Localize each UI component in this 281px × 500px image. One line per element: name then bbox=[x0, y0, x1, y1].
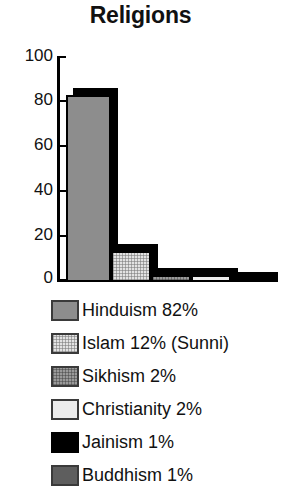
y-tick-label-40: 40 bbox=[7, 181, 53, 198]
chart-legend: Hinduism 82% Islam 12% (Sunni) Sikhism 2… bbox=[0, 296, 281, 494]
bar-jainism-face bbox=[231, 278, 265, 282]
bar-christianity-face bbox=[191, 275, 231, 282]
bar-hinduism-face bbox=[66, 95, 111, 282]
y-tick-label-20: 20 bbox=[7, 226, 53, 243]
page-title: Religions bbox=[0, 2, 281, 29]
legend-label-buddhism: Buddhism 1% bbox=[82, 464, 193, 486]
legend-label-hinduism: Hinduism 82% bbox=[82, 299, 198, 321]
legend-swatch-hinduism bbox=[51, 300, 79, 321]
legend-item-christianity[interactable]: Christianity 2% bbox=[0, 395, 281, 428]
legend-item-islam[interactable]: Islam 12% (Sunni) bbox=[0, 329, 281, 362]
bar-sikhism-face bbox=[151, 275, 191, 282]
legend-label-jainism: Jainism 1% bbox=[82, 431, 174, 453]
legend-swatch-islam bbox=[51, 333, 79, 354]
y-tick-label-0: 0 bbox=[7, 269, 53, 286]
y-tick-label-80: 80 bbox=[7, 91, 53, 108]
legend-item-hinduism[interactable]: Hinduism 82% bbox=[0, 296, 281, 329]
y-tick-100 bbox=[60, 56, 66, 58]
legend-label-sikhism: Sikhism 2% bbox=[82, 365, 176, 387]
legend-label-islam: Islam 12% (Sunni) bbox=[82, 332, 229, 354]
legend-item-jainism[interactable]: Jainism 1% bbox=[0, 428, 281, 461]
legend-swatch-buddhism bbox=[51, 465, 79, 486]
bar-chart-plot-area: 100 80 60 40 20 0 bbox=[0, 44, 281, 292]
y-axis-line bbox=[57, 56, 60, 282]
legend-swatch-jainism bbox=[51, 432, 79, 453]
legend-item-buddhism[interactable]: Buddhism 1% bbox=[0, 461, 281, 494]
bar-islam-face bbox=[111, 251, 151, 282]
legend-swatch-christianity bbox=[51, 399, 79, 420]
legend-item-sikhism[interactable]: Sikhism 2% bbox=[0, 362, 281, 395]
y-tick-label-60: 60 bbox=[7, 136, 53, 153]
bar-buddhism-face bbox=[265, 278, 274, 282]
y-tick-label-100: 100 bbox=[7, 47, 53, 64]
legend-swatch-sikhism bbox=[51, 366, 79, 387]
legend-label-christianity: Christianity 2% bbox=[82, 398, 202, 420]
